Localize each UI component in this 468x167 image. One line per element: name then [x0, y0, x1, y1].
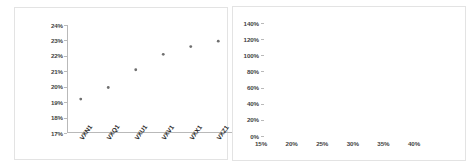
y-tick-mark	[261, 55, 264, 56]
chart-sheet: 24%23%22%21%20%19%18%17% VXN1VXQ1VXU1VXV…	[0, 0, 468, 167]
line-chart-panel[interactable]: 140%120%100%80%60%40%20%0% 15%20%25%30%3…	[232, 6, 466, 161]
y-tick-label: 20%	[227, 116, 259, 123]
y-tick-mark	[64, 133, 67, 134]
y-tick-mark	[261, 104, 264, 105]
x-tick-label: 25%	[309, 140, 335, 147]
y-tick-label: 23%	[33, 37, 63, 44]
scatter-point	[134, 68, 137, 71]
scatter-point	[162, 53, 165, 56]
y-tick-mark	[261, 120, 264, 121]
y-tick-mark	[64, 71, 67, 72]
y-tick-label: 19%	[33, 99, 63, 106]
y-tick-label: 24%	[33, 22, 63, 29]
x-tick-label: 35%	[370, 140, 396, 147]
x-tick-label: 20%	[279, 140, 305, 147]
scatter-point	[107, 86, 110, 89]
y-axis-line	[67, 25, 68, 133]
y-tick-mark	[261, 23, 264, 24]
y-tick-label: 21%	[33, 68, 63, 75]
y-tick-mark	[64, 118, 67, 119]
x-tick-label: 15%	[248, 140, 274, 147]
y-tick-mark	[64, 102, 67, 103]
scatter-point	[79, 98, 82, 101]
y-tick-mark	[261, 39, 264, 40]
y-tick-mark	[261, 136, 264, 137]
x-axis-line	[67, 132, 232, 133]
y-tick-mark	[261, 88, 264, 89]
x-tick-label: 30%	[340, 140, 366, 147]
y-tick-mark	[64, 25, 67, 26]
y-tick-mark	[261, 71, 264, 72]
y-tick-label: 18%	[33, 114, 63, 121]
y-tick-mark	[64, 40, 67, 41]
y-tick-label: 20%	[33, 83, 63, 90]
y-tick-mark	[64, 56, 67, 57]
scatter-series	[67, 25, 232, 133]
scatter-point	[217, 40, 220, 43]
x-tick-label: 40%	[401, 140, 427, 147]
y-tick-label: 140%	[227, 20, 259, 27]
y-tick-label: 100%	[227, 52, 259, 59]
y-tick-label: 120%	[227, 36, 259, 43]
scatter-chart-panel[interactable]: 24%23%22%21%20%19%18%17% VXN1VXQ1VXU1VXV…	[14, 7, 228, 160]
y-tick-label: 22%	[33, 52, 63, 59]
y-tick-label: 60%	[227, 84, 259, 91]
y-tick-mark	[64, 87, 67, 88]
scatter-plot-area	[67, 25, 232, 133]
scatter-point	[189, 45, 192, 48]
y-tick-label: 40%	[227, 100, 259, 107]
y-tick-label: 80%	[227, 68, 259, 75]
y-tick-label: 0%	[227, 133, 259, 140]
y-tick-label: 17%	[33, 130, 63, 137]
